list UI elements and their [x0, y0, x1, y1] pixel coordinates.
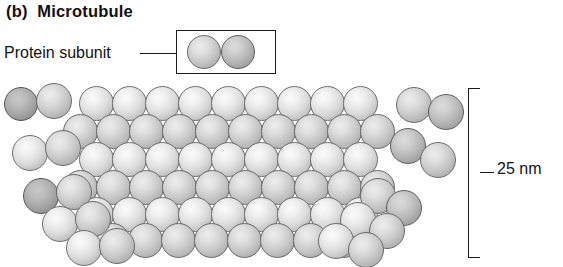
free-dimer-sphere-icon [36, 83, 72, 119]
protein-subunit-sphere-icon [348, 232, 384, 267]
scale-bracket-icon [468, 88, 480, 258]
legend-dimer-sphere-icon [221, 35, 255, 69]
free-dimer-sphere-icon [4, 87, 38, 121]
protein-subunit-sphere-icon [66, 230, 102, 266]
protein-subunit-sphere-icon [161, 223, 196, 258]
free-dimer-sphere-icon [396, 87, 432, 123]
microtubule-figure: (b) Microtubule Protein subunit 25 nm [0, 0, 563, 267]
scale-bracket-tick-icon [480, 172, 494, 173]
free-dimer-sphere-icon [12, 135, 48, 171]
page-title: (b) Microtubule [6, 2, 133, 21]
legend-dimer-sphere-icon [187, 35, 221, 69]
protein-subunit-sphere-icon [260, 223, 295, 258]
scale-label: 25 nm [497, 160, 541, 178]
protein-subunit-label: Protein subunit [4, 44, 111, 62]
protein-subunit-sphere-icon [194, 223, 229, 258]
leader-line-icon [140, 53, 177, 54]
free-dimer-sphere-icon [428, 94, 464, 130]
protein-subunit-sphere-icon [227, 223, 262, 258]
free-dimer-sphere-icon [420, 142, 456, 178]
free-dimer-sphere-icon [45, 130, 81, 166]
protein-subunit-sphere-icon [99, 228, 135, 264]
